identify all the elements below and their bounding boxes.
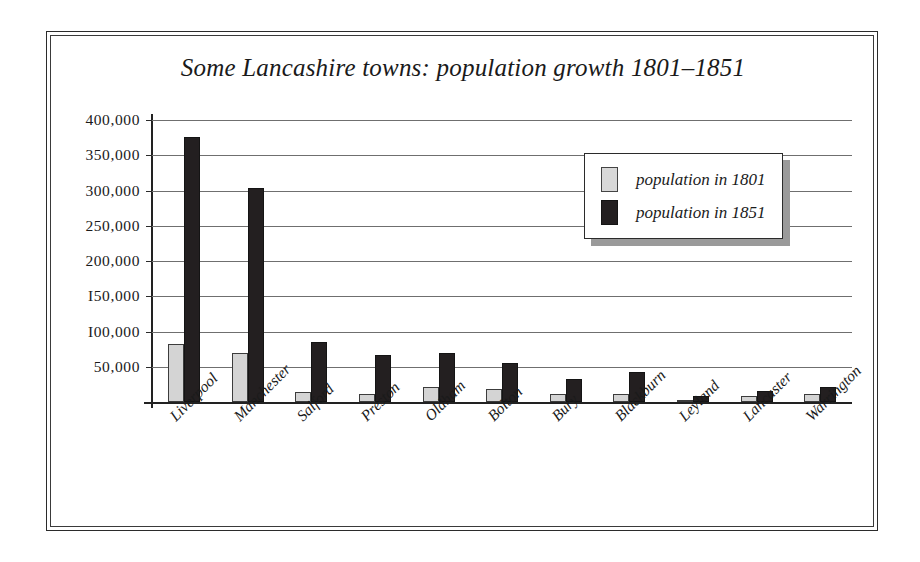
legend-item-1801: population in 1801 — [601, 163, 782, 196]
bar-group — [216, 120, 280, 402]
y-axis-tick-label: 200,000 — [85, 252, 140, 270]
bar-group — [279, 120, 343, 402]
y-axis-tick-label: 350,000 — [85, 146, 140, 164]
bar — [168, 344, 184, 402]
legend-label-1851: population in 1851 — [636, 203, 765, 223]
bar — [248, 188, 264, 402]
chart-legend: population in 1801 population in 1851 — [584, 153, 783, 239]
y-axis-tick-label: I50,000 — [88, 287, 140, 305]
light-gray-swatch-icon — [601, 167, 618, 192]
bar-group — [788, 120, 852, 402]
chart-title: Some Lancashire towns: population growth… — [47, 54, 879, 82]
bar — [232, 353, 248, 402]
bar-group — [152, 120, 216, 402]
y-axis-tick-label: 400,000 — [85, 111, 140, 129]
legend-item-1851: population in 1851 — [601, 196, 782, 229]
bar — [184, 137, 200, 402]
y-axis-tick-label: 50,000 — [94, 357, 140, 375]
black-swatch-icon — [601, 200, 618, 225]
y-axis-tick-label: 300,000 — [85, 181, 140, 199]
bar-group — [470, 120, 534, 402]
figure-frame: Some Lancashire towns: population growth… — [46, 31, 878, 531]
bar-chart: Some Lancashire towns: population growth… — [47, 32, 879, 532]
legend-label-1801: population in 1801 — [636, 170, 765, 190]
bar-group — [407, 120, 471, 402]
y-axis-tick-label: 250,000 — [85, 216, 140, 234]
bar-group — [343, 120, 407, 402]
y-axis-tick-label: I00,000 — [88, 322, 140, 340]
